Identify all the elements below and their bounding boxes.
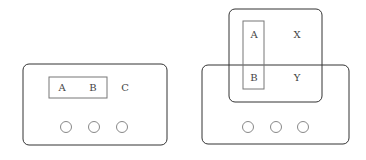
right-label-a: A <box>249 29 258 40</box>
diagram-canvas: A B C A X B Y <box>0 0 366 160</box>
left-label-a: A <box>57 82 66 93</box>
left-button-3 <box>117 122 128 133</box>
right-button-2 <box>271 122 282 133</box>
left-label-b: B <box>89 82 96 93</box>
right-button-3 <box>298 122 309 133</box>
right-button-1 <box>243 122 254 133</box>
left-device: A B C <box>23 64 167 145</box>
right-device: A X B Y <box>202 9 349 144</box>
right-label-b: B <box>250 72 257 83</box>
right-label-x: X <box>293 29 301 40</box>
left-button-1 <box>61 122 72 133</box>
left-label-c: C <box>121 82 129 93</box>
right-label-y: Y <box>293 72 301 83</box>
left-button-2 <box>89 122 100 133</box>
